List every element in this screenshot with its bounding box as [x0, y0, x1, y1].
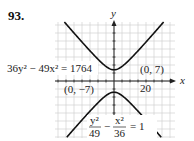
y-axis-arrow-icon	[112, 20, 117, 26]
equation-standard: y² 49 − x² 36 = 1	[87, 114, 157, 139]
vertex-label-lower: (0, −7)	[64, 83, 94, 96]
eq-frac-den-right: 36	[114, 127, 126, 139]
x-axis-arrow-icon	[170, 79, 176, 84]
eq-frac-num-right: x²	[115, 114, 125, 126]
eq-minus: −	[104, 120, 110, 132]
x-tick-label-20: 20	[140, 82, 152, 94]
eq-frac-num-left: y²	[90, 114, 100, 126]
eq-frac-den-left: 49	[89, 127, 101, 139]
x-axis-label: x	[179, 74, 185, 86]
hyperbola-chart: x y 20 (0, 7) (0, −7) 36y² − 49x² = 1764…	[0, 0, 194, 141]
eq-equals-one: = 1	[130, 120, 144, 132]
vertex-label-upper: (0, 7)	[140, 63, 164, 76]
equation-general: 36y² − 49x² = 1764	[7, 62, 93, 74]
y-axis-label: y	[110, 7, 116, 19]
